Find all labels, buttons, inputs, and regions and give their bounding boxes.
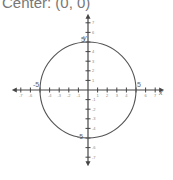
y-tick-label: 1	[92, 78, 95, 83]
x-intercept-neg5-label: -5	[33, 81, 39, 88]
coordinate-plane: -7-6-4-3-2-1123467-7-6-4-3-2-1123467 x y…	[0, 0, 173, 180]
x-tick-label: 7	[154, 93, 157, 98]
x-tick-label: -3	[57, 93, 61, 98]
y-intercept-neg5-label: -5	[77, 133, 83, 140]
y-tick-label: -3	[92, 116, 96, 121]
y-tick-label: -4	[92, 126, 96, 131]
axes	[12, 14, 164, 166]
y-tick-label: -6	[92, 145, 96, 150]
x-intercept-pos5-label: 5	[137, 81, 141, 88]
y-axis-arrow-down-icon	[86, 161, 91, 166]
x-tick-label: 6	[144, 93, 147, 98]
x-tick-label: -2	[67, 93, 71, 98]
x-tick-label: 4	[125, 93, 128, 98]
y-tick-label: -2	[92, 107, 96, 112]
y-tick-label: -7	[92, 155, 96, 160]
x-tick-label: -7	[19, 93, 23, 98]
y-tick-label: 4	[92, 49, 95, 54]
y-tick-label: 2	[92, 68, 95, 73]
x-tick-label: 3	[116, 93, 119, 98]
x-axis-arrow-left-icon	[12, 88, 17, 93]
x-tick-label: 1	[96, 93, 99, 98]
x-tick-label: -1	[77, 93, 81, 98]
y-tick-label: 6	[92, 30, 95, 35]
x-axis-label: x	[158, 89, 163, 96]
x-tick-label: -4	[48, 93, 52, 98]
y-axis-arrow-up-icon	[86, 14, 91, 19]
y-tick-label: 3	[92, 59, 95, 64]
x-tick-label: 2	[106, 93, 109, 98]
x-tick-label: -6	[29, 93, 33, 98]
y-intercept-pos5-label: 5	[81, 36, 85, 43]
y-tick-label: 7	[92, 20, 95, 25]
